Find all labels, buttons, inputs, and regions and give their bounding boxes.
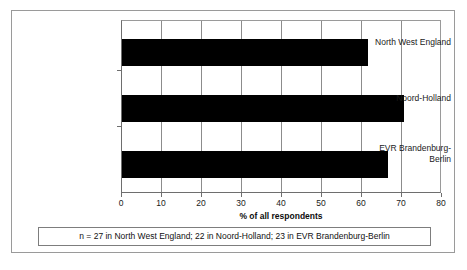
- xtick-label-10: 10: [146, 198, 176, 208]
- xtick-label-60: 60: [346, 198, 376, 208]
- xtick-60: [361, 193, 362, 197]
- category-label-noord-holland: Noord-Holland: [352, 93, 456, 104]
- xtick-label-50: 50: [306, 198, 336, 208]
- category-label-line: Noord-Holland: [396, 93, 451, 103]
- xtick-label-0: 0: [106, 198, 136, 208]
- bar-north-west-england[interactable]: [122, 39, 368, 66]
- figure-frame: North West England Noord-Holland EVR Bra…: [11, 10, 455, 253]
- xtick-30: [241, 193, 242, 197]
- category-label-line: EVR Brandenburg-: [379, 143, 451, 153]
- xtick-80: [441, 193, 442, 197]
- category-label-line: North West England: [375, 37, 451, 47]
- xtick-label-40: 40: [266, 198, 296, 208]
- x-axis-title: % of all respondents: [121, 211, 441, 221]
- xtick-10: [161, 193, 162, 197]
- footnote-box: n = 27 in North West England; 22 in Noor…: [38, 227, 431, 246]
- xtick-label-70: 70: [386, 198, 416, 208]
- xtick-70: [401, 193, 402, 197]
- category-label-evr-brandenburg-berlin: EVR Brandenburg- Berlin: [352, 143, 456, 164]
- bar-chart: North West England Noord-Holland EVR Bra…: [12, 11, 456, 211]
- xtick-label-30: 30: [226, 198, 256, 208]
- xtick-label-20: 20: [186, 198, 216, 208]
- footnote-text: n = 27 in North West England; 22 in Noor…: [39, 228, 430, 245]
- xtick-50: [321, 193, 322, 197]
- category-label-line: Berlin: [429, 154, 451, 164]
- xtick-20: [201, 193, 202, 197]
- category-tick: [117, 70, 121, 71]
- xtick-label-80: 80: [426, 198, 456, 208]
- xtick-0: [121, 193, 122, 197]
- category-label-north-west-england: North West England: [352, 37, 456, 48]
- category-tick: [117, 126, 121, 127]
- bar-evr-brandenburg-berlin[interactable]: [122, 151, 388, 178]
- xtick-40: [281, 193, 282, 197]
